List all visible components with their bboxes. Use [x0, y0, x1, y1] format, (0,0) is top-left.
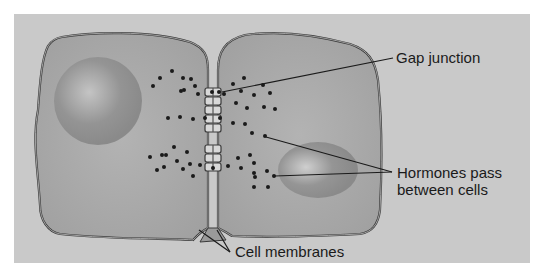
right-nucleus: [278, 142, 358, 198]
left-cell: [35, 33, 208, 240]
cell-membranes-label: Cell membranes: [235, 243, 344, 260]
hormones-label-line2: between cells: [397, 181, 502, 198]
right-cell: [218, 33, 381, 237]
cell-diagram: [0, 0, 544, 267]
left-nucleus: [54, 57, 142, 145]
hormones-label-line1: Hormones pass: [397, 164, 502, 181]
hormones-label: Hormones pass between cells: [397, 164, 502, 198]
gap-junction-channels: [205, 88, 221, 171]
gap-junction-label: Gap junction: [396, 49, 480, 66]
